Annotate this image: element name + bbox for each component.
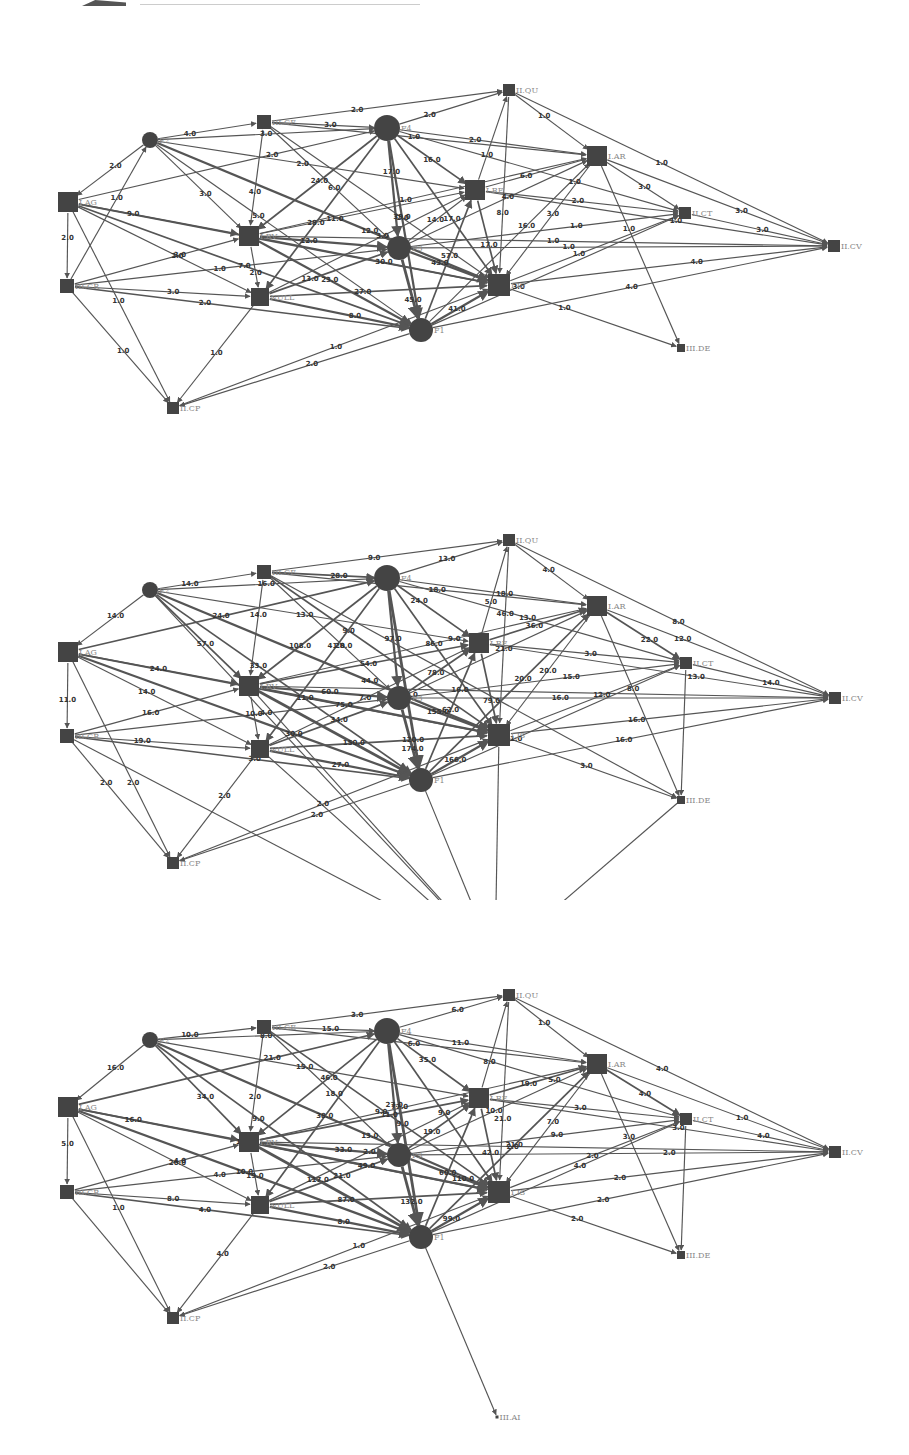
edge-weight-label: 4.0: [216, 1250, 229, 1258]
edge-I.IS-II.CV: [511, 699, 828, 734]
edge-weight-label: 21.0: [494, 1115, 511, 1123]
node-i-ar[interactable]: I.AR: [587, 146, 626, 166]
edge-weight-label: 12.0: [593, 691, 610, 699]
node-f4[interactable]: F4: [374, 115, 412, 141]
edge-F4-II.QU: [399, 92, 502, 124]
node-ii-ct[interactable]: II.CT: [680, 657, 714, 669]
node-ii-cp[interactable]: II.CP: [167, 1312, 201, 1324]
edge-F2-I.RV: [156, 1046, 242, 1134]
node-ii-cp[interactable]: II.CP: [167, 857, 201, 869]
edge-weight-label: 18.0: [429, 586, 446, 594]
node-ii-ct[interactable]: II.CT: [679, 207, 713, 219]
edge-weight-label: 21.0: [506, 1141, 523, 1149]
edge-weight-label: 13.0: [301, 275, 318, 283]
edge-weight-label: 3.0: [580, 762, 593, 770]
square-node-icon: [503, 534, 515, 546]
node-ii-qu[interactable]: II.QU: [503, 534, 538, 546]
edge-weight-label: 21.0: [333, 1172, 350, 1180]
node-ii-cp[interactable]: II.CP: [167, 402, 201, 414]
edge-III.CE-I.RV: [250, 580, 263, 675]
network-panel-1: 4.02.03.03.012.05.02.03.04.02.01.06.02.0…: [0, 0, 909, 450]
edge-weight-label: 2.0: [423, 111, 436, 119]
node-ii-cv[interactable]: II.CV: [829, 1146, 863, 1158]
node-i-ar[interactable]: I.AR: [587, 1054, 626, 1074]
edge-weight-label: 5.0: [252, 212, 265, 220]
node-iii-cr[interactable]: III.CR: [60, 279, 100, 293]
node-iii-cr[interactable]: III.CR: [60, 1185, 100, 1199]
edge-weight-label: 46.0: [320, 1074, 337, 1082]
edge-weight-label: 49.0: [358, 1162, 375, 1170]
edge-II.CP-I.IS: [180, 739, 488, 860]
circle-node-icon: [387, 1143, 411, 1167]
edge-weight-label: 45.0: [404, 296, 421, 304]
edge-weight-label: 43.0: [431, 259, 448, 267]
edge-I.IS-II.CV: [511, 247, 827, 284]
node-i-ar[interactable]: I.AR: [587, 596, 626, 616]
node-iii-de[interactable]: III.DE: [677, 796, 710, 805]
edge-weight-label: 4.0: [184, 130, 197, 138]
edge-weight-label: 3.0: [199, 190, 212, 198]
node-ii-cv[interactable]: II.CV: [829, 692, 863, 704]
square-node-icon: [680, 1113, 692, 1125]
node-label: I.RE: [490, 639, 508, 648]
node-label: F1: [434, 326, 445, 335]
edge-weight-label: 2.0: [571, 1215, 584, 1223]
node-label: II.CV: [842, 1148, 863, 1157]
node-iii-de[interactable]: III.DE: [677, 1251, 710, 1260]
circle-node-icon: [374, 115, 400, 141]
node-f4[interactable]: F4: [374, 1018, 412, 1044]
node-iii-cr[interactable]: III.CR: [60, 729, 100, 743]
edge-III.CR-II.CP: [72, 1198, 168, 1313]
edge-II.CT-III.DE: [681, 670, 686, 795]
node-f4[interactable]: F4: [374, 565, 412, 591]
edge-weight-label: 3.0: [756, 226, 769, 234]
node-label: NULL: [270, 745, 295, 754]
node-ii-qu[interactable]: II.QU: [503, 84, 538, 96]
edge-weight-label: 3.0: [351, 1011, 364, 1019]
node-iii-de[interactable]: III.DE: [677, 344, 710, 353]
edge-weight-label: 1.0: [736, 1114, 749, 1122]
node-i-ag[interactable]: I.AG: [58, 642, 97, 662]
node-i-ag[interactable]: I.AG: [58, 1097, 97, 1117]
node-ii-cv[interactable]: II.CV: [828, 240, 862, 252]
edge-weight-label: 6.0: [452, 1006, 465, 1014]
edge-weight-label: 15.0: [296, 1063, 313, 1071]
node-ii-ct[interactable]: II.CT: [680, 1113, 714, 1125]
node-label: F1: [434, 1233, 445, 1242]
edge-F2-I.AG: [77, 595, 144, 646]
node-iii-ce[interactable]: III.CE: [257, 115, 296, 129]
node-iii-ce[interactable]: III.CE: [257, 565, 296, 579]
node-label: F2: [159, 136, 170, 145]
node-i-re[interactable]: I.RE: [465, 180, 504, 200]
node-i-rv[interactable]: I.RV: [239, 676, 277, 696]
edge-I.IS-III.DE: [510, 289, 676, 346]
node-iii-ai[interactable]: III.AI: [496, 1413, 521, 1422]
edge-weight-label: 30.0: [285, 730, 302, 738]
edge-I.RV-II.CV: [260, 686, 828, 698]
circle-node-icon: [409, 318, 433, 342]
edge-F2-III.CE: [158, 123, 256, 139]
node-label: I.IS: [511, 731, 525, 740]
node-i-rv[interactable]: I.RV: [239, 1132, 277, 1152]
edge-weight-label: 17.0: [480, 241, 497, 249]
node-ii-qu[interactable]: II.QU: [503, 989, 538, 1001]
edge-weight-label: 19.0: [134, 737, 151, 745]
node-iii-ce[interactable]: III.CE: [257, 1020, 296, 1034]
edge-weight-label: 3.0: [623, 1133, 636, 1141]
edge-weight-label: 2.0: [597, 1196, 610, 1204]
edge-F1-II.CT: [432, 216, 679, 325]
edge-weight-label: 15.0: [563, 673, 580, 681]
edges-layer: [67, 541, 829, 900]
edge-weight-label: 60.0: [321, 688, 338, 696]
edge-weight-label: 27.0: [332, 761, 349, 769]
edge-weight-label: 1.0: [569, 178, 582, 186]
edge-weight-label: 8.0: [672, 618, 685, 626]
node-label: F1: [434, 776, 445, 785]
edge-weight-label: 24.0: [411, 597, 428, 605]
edge-weight-label: 28.0: [307, 219, 324, 227]
edge-weight-label: 79.0: [483, 697, 500, 705]
node-i-ag[interactable]: I.AG: [58, 192, 97, 212]
edge-weight-label: 6.0: [408, 1040, 421, 1048]
square-node-icon: [251, 288, 269, 306]
node-i-rv[interactable]: I.RV: [239, 226, 277, 246]
